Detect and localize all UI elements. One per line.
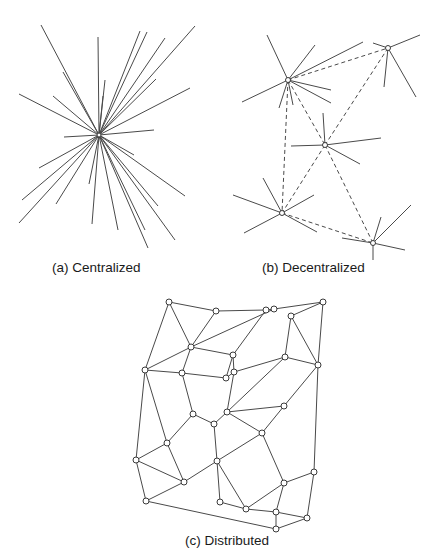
mesh-node — [311, 469, 317, 475]
mesh-edge — [217, 461, 220, 502]
mesh-edge — [314, 365, 318, 472]
mesh-node — [271, 306, 277, 312]
mesh-node — [142, 367, 148, 373]
mesh-edge — [307, 472, 314, 518]
mesh-node — [211, 421, 217, 427]
hub-node — [323, 143, 328, 148]
spoke-line — [99, 135, 175, 240]
mesh-edge — [145, 370, 182, 373]
mesh-edge — [285, 357, 318, 365]
mesh-node — [281, 403, 287, 409]
spoke-line — [267, 35, 288, 80]
spoke-line — [342, 238, 373, 243]
spoke-line — [384, 48, 388, 87]
hub-link-dashed — [325, 145, 373, 243]
mesh-node — [181, 479, 187, 485]
mesh-edge — [136, 460, 146, 501]
spoke-line — [288, 80, 293, 105]
mesh-edge — [227, 412, 262, 433]
hub-link-dashed — [282, 145, 325, 213]
network-topologies-diagram — [0, 0, 425, 560]
mesh-node — [273, 509, 279, 515]
mesh-edge — [276, 518, 307, 529]
mesh-edge — [169, 302, 216, 311]
mesh-node — [263, 307, 269, 313]
spoke-line — [41, 25, 99, 135]
spoke-line — [39, 135, 99, 168]
mesh-edge — [233, 310, 266, 355]
spoke-line — [263, 178, 282, 213]
mesh-node — [259, 430, 265, 436]
mesh-node — [223, 375, 229, 381]
spoke-line — [98, 37, 99, 135]
hub-node — [280, 211, 285, 216]
spoke-line — [56, 135, 99, 204]
spoke-line — [233, 195, 282, 213]
mesh-edge — [184, 461, 217, 482]
spoke-line — [288, 80, 331, 103]
spoke-line — [288, 42, 363, 80]
spoke-line — [291, 145, 325, 146]
mesh-node — [273, 526, 279, 532]
mesh-edge — [217, 433, 262, 461]
mesh-edge — [167, 443, 184, 482]
mesh-edge — [136, 460, 184, 482]
mesh-node — [231, 369, 237, 375]
mesh-node — [213, 308, 219, 314]
mesh-edge — [262, 433, 284, 483]
hub-link-dashed — [325, 48, 388, 145]
hub-link-dashed — [282, 213, 373, 243]
mesh-edge — [291, 316, 318, 365]
mesh-edge — [191, 347, 233, 355]
spoke-line — [325, 138, 381, 145]
mesh-edge — [284, 365, 318, 406]
mesh-node — [190, 411, 196, 417]
caption-distributed: (c) Distributed — [185, 533, 269, 548]
mesh-node — [304, 515, 310, 521]
mesh-edge — [167, 414, 193, 443]
mesh-edge — [182, 373, 226, 378]
spoke-line — [244, 213, 282, 233]
spoke-line — [99, 135, 118, 230]
spoke-line — [388, 35, 420, 48]
mesh-node — [166, 299, 172, 305]
mesh-node — [164, 440, 170, 446]
hub-node — [371, 241, 376, 246]
hub-node — [386, 46, 391, 51]
spoke-line — [92, 135, 99, 224]
mesh-node — [179, 370, 185, 376]
spoke-line — [99, 79, 156, 135]
central-hub-node — [97, 133, 101, 137]
mesh-node — [224, 409, 230, 415]
mesh-edge — [214, 424, 217, 461]
mesh-node — [315, 362, 321, 368]
spoke-line — [22, 135, 99, 200]
mesh-edge — [285, 316, 291, 357]
spoke-line — [99, 26, 195, 135]
mesh-edge — [146, 501, 276, 529]
spoke-line — [288, 45, 315, 80]
spoke-line — [373, 243, 405, 250]
decentralized-network — [233, 35, 420, 260]
spoke-line — [242, 80, 288, 102]
mesh-edge — [136, 370, 145, 460]
mesh-node — [217, 499, 223, 505]
mesh-node — [243, 506, 249, 512]
mesh-edge — [169, 302, 191, 347]
spoke-line — [99, 32, 147, 135]
mesh-node — [214, 458, 220, 464]
mesh-edge — [246, 509, 276, 512]
hub-link-dashed — [282, 80, 288, 213]
hub-node — [286, 78, 291, 83]
mesh-node — [133, 457, 139, 463]
mesh-edge — [216, 310, 266, 311]
mesh-edge — [182, 373, 193, 414]
spoke-line — [325, 145, 360, 164]
mesh-node — [288, 313, 294, 319]
spoke-line — [64, 135, 99, 137]
mesh-node — [282, 354, 288, 360]
mesh-node — [143, 498, 149, 504]
caption-centralized: (a) Centralized — [52, 260, 141, 275]
mesh-edge — [145, 370, 167, 443]
hub-link-dashed — [288, 48, 388, 80]
